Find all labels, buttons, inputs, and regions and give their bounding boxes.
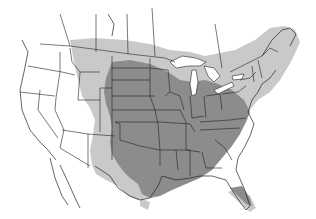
range-map: [0, 0, 316, 219]
